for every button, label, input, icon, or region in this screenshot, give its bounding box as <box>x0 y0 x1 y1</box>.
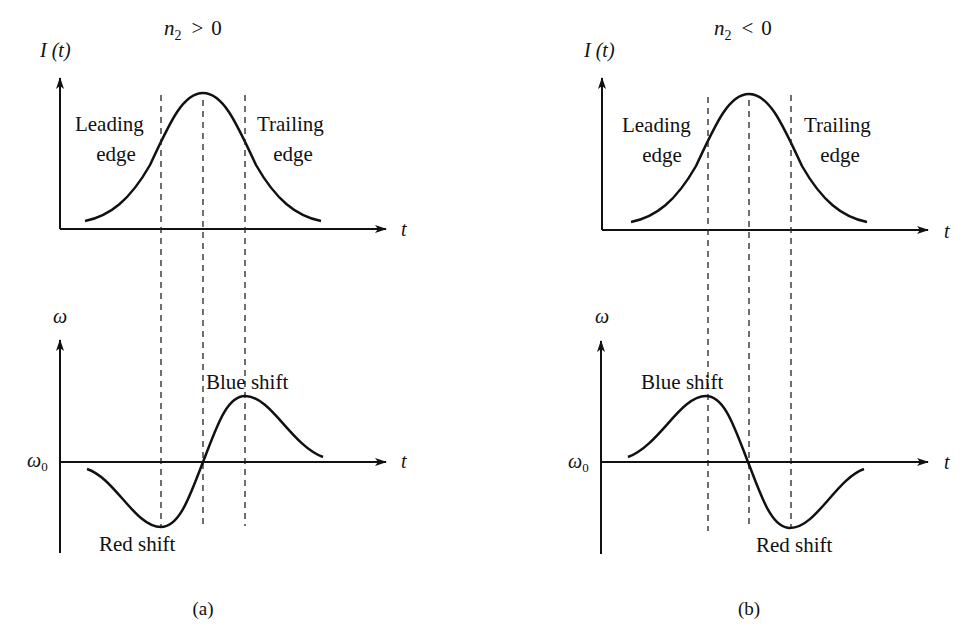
x-axis-label-a-bottom: t <box>401 450 407 472</box>
trailing-edge-label-b: Trailing edge <box>804 113 876 167</box>
baseline-label-b: ω0 <box>568 450 589 475</box>
frequency-plot-b: ω t ω0 Blue shift Red shift <box>568 305 950 557</box>
leading-edge-label-b: Leading edge <box>622 113 696 167</box>
caption-a: (a) <box>192 598 213 620</box>
x-axis-label-b-top: t <box>944 220 950 242</box>
y-axis-label-intensity-a: I (t) <box>39 39 71 62</box>
intensity-plot-b: I (t) t Leading edge Trailing edge <box>583 39 950 242</box>
red-shift-label-a: Red shift <box>99 532 176 556</box>
condition-title-a: n2>0 <box>164 16 222 43</box>
spm-diagram: n2>0 I (t) t Leading edge Trailing edge <box>0 0 975 643</box>
y-axis-label-intensity-b: I (t) <box>583 39 615 62</box>
y-axis-label-omega-b: ω <box>595 305 609 327</box>
blue-shift-label-b: Blue shift <box>641 370 723 394</box>
red-shift-label-b: Red shift <box>756 533 833 557</box>
panel-b: n2<0 I (t) t Leading edge Trailing edge … <box>568 16 950 620</box>
trailing-edge-label-a: Trailing edge <box>257 112 329 166</box>
y-axis-label-omega-a: ω <box>53 305 67 327</box>
x-axis-label-b-bottom: t <box>944 451 950 473</box>
panel-a: n2>0 I (t) t Leading edge Trailing edge <box>27 16 407 620</box>
baseline-label-a: ω0 <box>27 449 48 474</box>
caption-b: (b) <box>738 598 760 620</box>
leading-edge-label-a: Leading edge <box>75 112 149 166</box>
intensity-plot-a: I (t) t Leading edge Trailing edge <box>39 39 407 240</box>
frequency-plot-a: ω t ω0 Blue shift Red shift <box>27 305 407 556</box>
condition-title-b: n2<0 <box>714 16 772 43</box>
blue-shift-label-a: Blue shift <box>206 370 288 394</box>
x-axis-label-a-top: t <box>401 218 407 240</box>
